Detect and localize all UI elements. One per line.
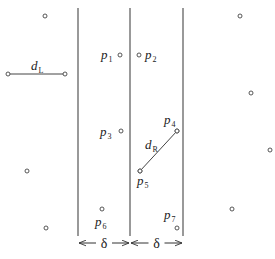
point-4	[25, 169, 29, 173]
point-p3	[119, 129, 123, 133]
label-p4: p4	[163, 112, 176, 129]
point-dL-a	[6, 72, 10, 76]
label-p1: p1	[100, 47, 113, 64]
label-dL: dL	[31, 58, 44, 75]
points	[6, 14, 272, 230]
delta-label: δ	[101, 236, 108, 251]
label-p2: p2	[144, 47, 157, 64]
label-dR: dR	[145, 137, 159, 154]
label-p7: p7	[163, 207, 176, 224]
delta-label: δ	[153, 236, 160, 251]
point-p7	[175, 226, 179, 230]
point-p1	[118, 53, 122, 57]
label-p6: p6	[94, 214, 107, 231]
point-0	[43, 14, 47, 18]
point-2	[249, 91, 253, 95]
point-p2	[137, 53, 141, 57]
delta-dimension-arrows: δδ	[79, 236, 182, 251]
point-3	[268, 148, 272, 152]
point-dL-b	[63, 72, 67, 76]
distance-segments	[8, 74, 177, 171]
point-5	[230, 207, 234, 211]
point-6	[44, 226, 48, 230]
label-p3: p3	[99, 124, 112, 141]
point-labels: dLdRp1p2p3p4p5p6p7	[31, 47, 176, 231]
point-p4	[175, 129, 179, 133]
point-p6	[100, 207, 104, 211]
closest-pair-strip-diagram: δδ dLdRp1p2p3p4p5p6p7	[0, 0, 275, 259]
point-1	[238, 14, 242, 18]
label-p5: p5	[136, 173, 149, 190]
